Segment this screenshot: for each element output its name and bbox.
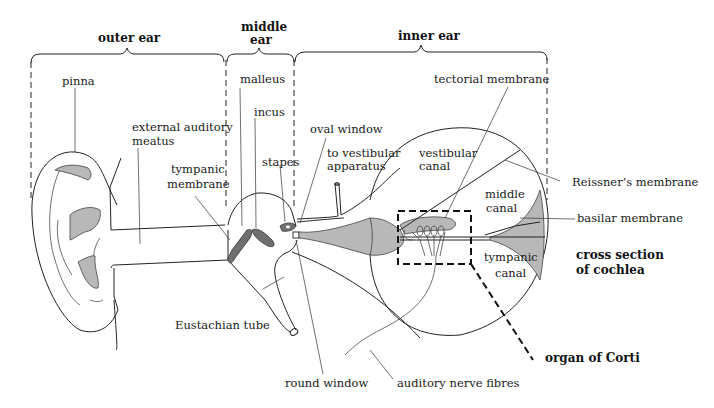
- header-middle-ear-line1: middle: [241, 20, 288, 34]
- label-vestibular-canal-2: canal: [419, 159, 451, 173]
- label-middle-canal-2: canal: [486, 201, 518, 215]
- label-organ-of-corti: organ of Corti: [545, 351, 640, 365]
- label-oval-window: oval window: [310, 122, 383, 136]
- label-tympanic-membrane-1: tympanic: [171, 162, 225, 176]
- label-stapes: stapes: [262, 155, 300, 169]
- label-to-vestibular-apparatus-1: to vestibular: [327, 146, 401, 160]
- label-external-auditory-meatus-1: external auditory: [132, 120, 233, 134]
- label-tympanic-canal-2: canal: [495, 266, 527, 280]
- ear-diagram-svg: outer ear middle ear inner ear: [0, 0, 714, 408]
- middle-ear-shape: [228, 193, 299, 337]
- label-malleus: malleus: [240, 72, 285, 86]
- label-incus: incus: [254, 105, 285, 119]
- label-tympanic-canal-1: tympanic: [484, 250, 538, 264]
- header-middle-ear-line2: ear: [250, 33, 272, 47]
- label-vestibular-canal-1: vestibular: [418, 146, 478, 160]
- header-inner-ear: inner ear: [398, 29, 461, 43]
- label-auditory-nerve-fibres: auditory nerve fibres: [397, 376, 519, 390]
- label-tectorial-membrane: tectorial membrane: [434, 72, 550, 86]
- label-to-vestibular-apparatus-2: apparatus: [327, 159, 386, 173]
- label-basilar-membrane: basilar membrane: [577, 211, 683, 225]
- ear-anatomy-diagram: outer ear middle ear inner ear: [0, 0, 714, 408]
- header-outer-ear: outer ear: [98, 31, 161, 45]
- label-external-auditory-meatus-2: meatus: [132, 134, 175, 148]
- label-round-window: round window: [285, 376, 368, 390]
- label-middle-canal-1: middle: [485, 187, 525, 201]
- label-reissners-membrane: Reissner’s membrane: [572, 175, 699, 189]
- label-cross-section-2: of cochlea: [576, 263, 645, 277]
- label-pinna: pinna: [62, 74, 95, 88]
- label-tympanic-membrane-2: membrane: [167, 177, 230, 191]
- label-eustachian-tube: Eustachian tube: [175, 318, 270, 332]
- label-cross-section-1: cross section: [576, 248, 664, 262]
